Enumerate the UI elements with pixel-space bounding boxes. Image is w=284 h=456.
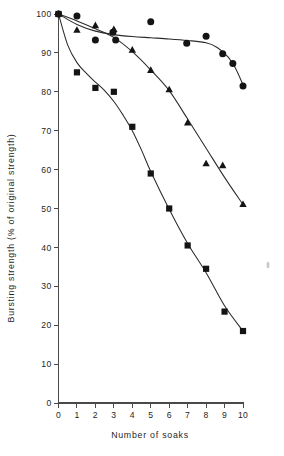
- data-point-square: [185, 242, 191, 248]
- data-point-circle: [112, 37, 119, 44]
- data-point-triangle: [92, 22, 99, 29]
- data-point-square: [92, 85, 98, 91]
- x-axis-title: Number of soaks: [111, 430, 189, 440]
- data-point-square: [203, 266, 209, 272]
- data-point-circle: [92, 37, 99, 44]
- x-tick-label: 3: [111, 410, 116, 420]
- y-tick-label: 10: [41, 359, 51, 369]
- data-point-square: [166, 205, 172, 211]
- x-tick-label: 9: [222, 410, 227, 420]
- y-tick-label: 70: [41, 126, 51, 136]
- x-tick-label: 0: [56, 410, 61, 420]
- y-tick-label: 90: [41, 48, 51, 58]
- x-tick-label: 5: [148, 410, 153, 420]
- data-point-square: [240, 328, 246, 334]
- data-point-square: [74, 69, 80, 75]
- data-point-square: [55, 11, 61, 17]
- data-point-triangle: [110, 25, 117, 32]
- y-axis-title: Bursting strength (% of original strengt…: [6, 134, 16, 323]
- data-point-circle: [147, 18, 154, 25]
- data-point-circle: [240, 82, 247, 89]
- data-point-triangle: [202, 160, 209, 167]
- y-tick-label: 80: [41, 87, 51, 97]
- x-tick-label: 10: [238, 410, 248, 420]
- y-tick-label: 30: [41, 281, 51, 291]
- y-tick-label: 100: [36, 9, 51, 19]
- y-tick-label: 40: [41, 243, 51, 253]
- chart-figure: 0102030405060708090100 012345678910 Numb…: [0, 0, 284, 456]
- x-tick-label: 2: [93, 410, 98, 420]
- data-point-circle: [203, 33, 210, 40]
- data-point-square: [129, 124, 135, 130]
- data-point-circle: [219, 50, 226, 57]
- x-tick-label: 1: [74, 410, 79, 420]
- data-point-triangle: [73, 26, 80, 33]
- data-point-square: [148, 170, 154, 176]
- y-axis-ticks: 0102030405060708090100: [36, 9, 58, 408]
- y-tick-label: 0: [46, 398, 51, 408]
- x-axis-ticks: 012345678910: [56, 403, 248, 420]
- chart-svg: 0102030405060708090100 012345678910 Numb…: [0, 0, 284, 456]
- y-tick-label: 60: [41, 165, 51, 175]
- x-tick-label: 4: [130, 410, 135, 420]
- series-markers: [55, 10, 247, 334]
- data-point-triangle: [219, 162, 226, 169]
- data-point-triangle: [184, 119, 191, 126]
- data-point-square: [111, 89, 117, 95]
- scan-artifact-speck: [267, 262, 270, 268]
- y-tick-label: 20: [41, 320, 51, 330]
- x-tick-label: 6: [167, 410, 172, 420]
- x-tick-label: 8: [204, 410, 209, 420]
- data-point-circle: [183, 40, 190, 47]
- data-point-circle: [229, 60, 236, 67]
- y-tick-label: 50: [41, 204, 51, 214]
- data-point-square: [221, 308, 227, 314]
- data-point-circle: [73, 12, 80, 19]
- x-tick-label: 7: [185, 410, 190, 420]
